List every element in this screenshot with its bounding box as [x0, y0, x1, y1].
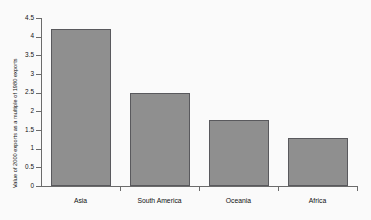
y-tick-label: 4 [20, 33, 34, 39]
y-tick-label: 1.5 [20, 127, 34, 133]
y-tick-label: 4.5 [20, 15, 34, 21]
y-tick-label: 3 [20, 71, 34, 77]
bar [209, 120, 269, 186]
y-tick-label: 1 [20, 145, 34, 151]
bar-chart: Value of 2000 exports as a multiple of 1… [0, 0, 371, 220]
y-tick-label: 2.5 [20, 89, 34, 95]
y-tick-mark [36, 167, 41, 168]
y-tick-mark [36, 111, 41, 112]
y-axis-line [41, 18, 42, 186]
x-tick-label: Africa [268, 196, 368, 205]
y-tick-mark [36, 149, 41, 150]
y-tick-mark [36, 130, 41, 131]
y-tick-mark [36, 55, 41, 56]
y-tick-mark [36, 18, 41, 19]
bar [130, 93, 190, 186]
x-tick-mark [199, 187, 200, 191]
bar [51, 29, 111, 186]
y-tick-mark [36, 37, 41, 38]
y-tick-label: 2 [20, 108, 34, 114]
y-tick-mark [36, 186, 41, 187]
x-tick-mark [278, 187, 279, 191]
y-tick-mark [36, 93, 41, 94]
y-tick-label: 3.5 [20, 52, 34, 58]
bar [288, 138, 348, 186]
y-tick-label: 0.5 [20, 164, 34, 170]
y-tick-label: 0 [20, 183, 34, 189]
x-tick-mark [120, 187, 121, 191]
x-tick-mark [357, 187, 358, 191]
y-tick-mark [36, 74, 41, 75]
